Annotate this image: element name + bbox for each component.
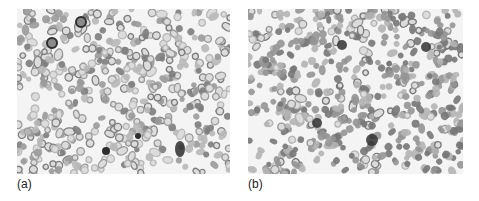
leukocyte-cell bbox=[47, 38, 57, 48]
leukocyte-cell bbox=[337, 40, 347, 50]
blood-smear-image-b bbox=[248, 9, 463, 174]
leukocyte-cell bbox=[421, 42, 431, 52]
leukocyte-cell bbox=[102, 147, 110, 155]
leukocyte-cell bbox=[175, 141, 185, 157]
panel-label-a: (a) bbox=[17, 177, 32, 191]
blood-smear-image-a bbox=[17, 9, 230, 174]
leukocyte-cell bbox=[76, 17, 86, 27]
leukocyte-cell bbox=[135, 133, 141, 139]
leukocyte-cell bbox=[312, 118, 322, 128]
micrograph-panel-a bbox=[17, 9, 230, 174]
micrograph-panel-b bbox=[248, 9, 463, 174]
panel-label-b: (b) bbox=[248, 177, 263, 191]
leukocyte-cell bbox=[366, 134, 378, 146]
